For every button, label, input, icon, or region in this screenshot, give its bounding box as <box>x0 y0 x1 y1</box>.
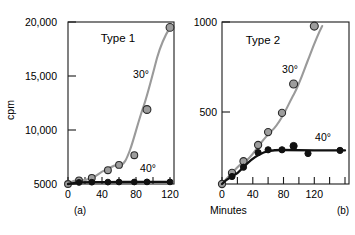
panel-a-plot-frame <box>68 22 174 184</box>
panel-b-svg: 500 1000 0 40 80 120 Minutes <box>175 0 355 235</box>
panel-a-point-40-78 <box>131 179 137 185</box>
panel-a-point-40-93 <box>144 179 150 185</box>
panel-a-ytick-20000: 20,000 <box>25 16 57 28</box>
panel-b-point-40-28 <box>240 164 246 170</box>
panel-a-point-30-47 <box>105 167 112 174</box>
panel-b-point-40-120 <box>305 150 311 156</box>
panel-b-point-40-93 <box>290 142 297 149</box>
panel-a-point-40-13 <box>76 180 82 186</box>
panel-a-svg: cpm 5000 10,000 15,000 20,000 0 40 <box>0 0 180 235</box>
figure-two-panel-kinetics: cpm 5000 10,000 15,000 20,000 0 40 <box>0 0 355 235</box>
panel-b-label-30: 30° <box>282 63 298 75</box>
panel-b-xtick-0: 0 <box>219 188 225 200</box>
panel-a-letter: (a) <box>74 205 86 216</box>
panel-b-point-40-78 <box>279 147 285 153</box>
panel-b-point-30-93 <box>290 80 298 88</box>
panel-a-xtick-0: 0 <box>65 188 71 200</box>
panel-a-ytick-10000: 10,000 <box>25 124 57 136</box>
panel-b-point-40-60 <box>265 147 271 153</box>
panel-a-title: Type 1 <box>101 32 136 44</box>
panel-a-point-40-47 <box>105 179 111 185</box>
panel-b-xtick-120: 120 <box>306 188 324 200</box>
panel-b-ytick-1000: 1000 <box>194 16 218 28</box>
panel-b-point-30-47 <box>255 141 262 148</box>
panel-b-point-30-78 <box>278 109 285 116</box>
panel-a-y-axis-title: cpm <box>4 100 16 120</box>
panel-b-type-2: 500 1000 0 40 80 120 Minutes <box>175 0 355 235</box>
panel-a-xtick-80: 80 <box>130 188 142 200</box>
panel-b-label-40: 40° <box>315 131 331 143</box>
panel-b-point-30-60 <box>265 129 272 136</box>
panel-b-point-40-155 <box>337 147 343 153</box>
panel-a-point-40-28 <box>89 179 95 185</box>
panel-b-series-30-line <box>222 26 322 184</box>
panel-a-label-30: 30° <box>133 68 149 80</box>
panel-b-ytick-500: 500 <box>199 106 217 118</box>
panel-a-point-30-78 <box>131 152 138 159</box>
panel-a-series-30-line <box>68 27 170 184</box>
panel-a-point-30-120 <box>166 24 174 32</box>
panel-a-point-30-60 <box>116 162 123 169</box>
panel-a-point-40-60 <box>116 179 122 185</box>
panel-b-point-30-120 <box>310 22 318 30</box>
panel-a-type-1: cpm 5000 10,000 15,000 20,000 0 40 <box>0 0 180 235</box>
panel-b-point-40-13 <box>229 173 235 179</box>
panel-a-point-30-93 <box>143 106 151 114</box>
panel-b-title: Type 2 <box>246 34 281 46</box>
panel-a-label-40: 40° <box>140 162 156 174</box>
shared-x-axis-title: Minutes <box>210 204 247 216</box>
panel-b-point-40-47 <box>255 150 261 156</box>
panel-b-xtick-80: 80 <box>278 188 290 200</box>
panel-b-letter: (b) <box>337 205 349 216</box>
panel-a-ytick-15000: 15,000 <box>25 70 57 82</box>
panel-a-point-40-120 <box>167 179 173 185</box>
panel-b-xtick-40: 40 <box>247 188 259 200</box>
panel-a-xtick-40: 40 <box>96 188 108 200</box>
panel-a-ytick-5000: 5000 <box>34 178 58 190</box>
